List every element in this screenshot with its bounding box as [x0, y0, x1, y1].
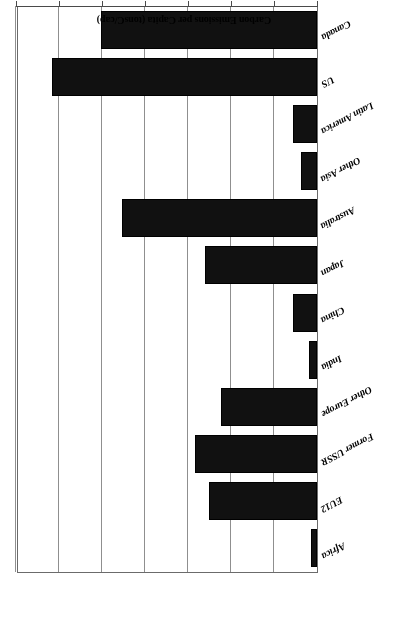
- category-row: India: [318, 337, 394, 384]
- bar-row: [16, 525, 317, 572]
- category-label-other-europe: Other Europe: [319, 385, 373, 421]
- plot-area: [17, 7, 318, 573]
- bar-row: [16, 6, 317, 53]
- bar-other-europe: [221, 388, 317, 426]
- category-label-latin-america: Latin America: [319, 101, 375, 138]
- tick-label-5.00: 5.00: [101, 0, 111, 9]
- category-row: Australia: [318, 196, 394, 243]
- category-label-australia: Australia: [319, 205, 357, 232]
- x-axis-title: Carbon Emissions per Capita (tonsC/cap): [14, 15, 354, 26]
- bar-former-ussr: [195, 435, 317, 473]
- category-row: Other Europe: [318, 384, 394, 431]
- category-label-other-asia: Other Asia: [319, 155, 362, 185]
- category-row: China: [318, 290, 394, 337]
- category-label-us: US: [319, 75, 335, 91]
- category-label-china: China: [319, 305, 346, 326]
- category-label-japan: Japan: [319, 258, 346, 279]
- category-row: EU12: [318, 479, 394, 526]
- tick-label-2.00: 2.00: [230, 0, 240, 9]
- bar-japan: [205, 246, 317, 284]
- tick-label-6.00: 6.00: [58, 0, 68, 9]
- tick-label-4.00: 4.00: [144, 0, 154, 9]
- tick-label-3.00: 3.00: [187, 0, 197, 9]
- bar-us: [52, 58, 317, 96]
- category-row: Africa: [318, 526, 394, 573]
- bar-eu12: [209, 482, 317, 520]
- category-row: Former USSR: [318, 431, 394, 478]
- category-label-africa: Africa: [319, 541, 347, 563]
- bar-latin-america: [293, 105, 317, 143]
- category-label-canada: Canada: [319, 19, 352, 44]
- category-label-india: India: [319, 354, 343, 374]
- bar-row: [16, 478, 317, 525]
- category-row: Japan: [318, 243, 394, 290]
- category-labels: CanadaUSLatin AmericaOther AsiaAustralia…: [318, 7, 394, 573]
- bar-row: [16, 242, 317, 289]
- bar-africa: [311, 529, 317, 567]
- bar-row: [16, 336, 317, 383]
- bar-row: [16, 100, 317, 147]
- bar-china: [293, 294, 317, 332]
- bar-row: [16, 383, 317, 430]
- bar-row: [16, 53, 317, 100]
- chart-figure: 0.001.002.003.004.005.006.007.00 Carbon …: [0, 0, 394, 629]
- bar-row: [16, 430, 317, 477]
- bar-other-asia: [301, 152, 317, 190]
- category-row: Canada: [318, 7, 394, 54]
- category-row: Other Asia: [318, 148, 394, 195]
- bar-series: [16, 6, 317, 572]
- category-row: Latin America: [318, 101, 394, 148]
- bar-row: [16, 289, 317, 336]
- category-label-eu12: EU12: [319, 494, 345, 515]
- category-label-former-ussr: Former USSR: [319, 431, 375, 468]
- bar-row: [16, 195, 317, 242]
- bar-australia: [122, 199, 317, 237]
- category-row: US: [318, 54, 394, 101]
- tick-label-1.00: 1.00: [273, 0, 283, 9]
- bar-india: [309, 341, 317, 379]
- tick-label-7.00: 7.00: [15, 0, 25, 9]
- bar-row: [16, 147, 317, 194]
